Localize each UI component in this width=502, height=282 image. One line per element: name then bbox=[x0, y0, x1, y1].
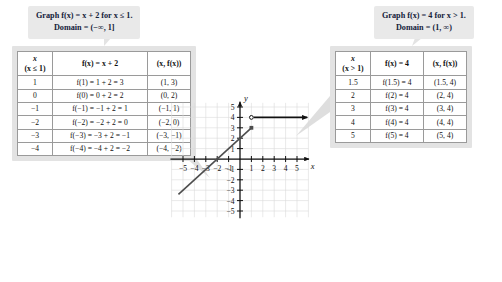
callout-left-line1: Graph f(x) = x + 2 for x ≤ 1. bbox=[36, 10, 132, 22]
table-row: 0 f(0) = 0 + 2 = 2 (0, 2) bbox=[18, 89, 191, 102]
y-tick-label: 3 bbox=[231, 124, 235, 133]
table-panel-left: x (x ≤ 1) f(x) = x + 2 (x, f(x)) 1 f(1) … bbox=[12, 46, 196, 161]
cell-fx: f(−1) = −1 + 2 = 1 bbox=[53, 103, 148, 116]
cell-fx: f(−2) = −2 + 2 = 0 bbox=[53, 116, 148, 129]
cell-fx: f(0) = 0 + 2 = 2 bbox=[53, 89, 148, 102]
table-left: x (x ≤ 1) f(x) = x + 2 (x, f(x)) 1 f(1) … bbox=[17, 51, 191, 156]
cell-pair: (5, 4) bbox=[424, 129, 467, 142]
table-row: 4 f(4) = 4 (4, 4) bbox=[336, 116, 467, 129]
callout-right-line2: Domain = (1, ∞) bbox=[382, 22, 466, 34]
table-left-body: 1 f(1) = 1 + 2 = 3 (1, 3) 0 f(0) = 0 + 2… bbox=[18, 76, 191, 156]
table-row: 1.5 f(1.5) = 4 (1.5, 4) bbox=[336, 76, 467, 89]
y-axis-label: y bbox=[243, 93, 248, 103]
cell-fx: f(4) = 4 bbox=[371, 116, 424, 129]
table-right-header-fx: f(x) = 4 bbox=[371, 52, 424, 76]
table-right-header-x-sub: (x > 1) bbox=[341, 64, 365, 74]
cell-pair: (1, 3) bbox=[148, 76, 191, 89]
y-tick-label: 5 bbox=[231, 103, 235, 112]
cell-x: 1.5 bbox=[336, 76, 371, 89]
closed-endpoint-marker bbox=[250, 126, 254, 130]
table-left-header-row: x (x ≤ 1) f(x) = x + 2 (x, f(x)) bbox=[18, 52, 191, 76]
callout-right: Graph f(x) = 4 for x > 1. Domain = (1, ∞… bbox=[374, 6, 474, 39]
callout-right-line1: Graph f(x) = 4 for x > 1. bbox=[382, 10, 466, 22]
table-row: −1 f(−1) = −1 + 2 = 1 (−1, 1) bbox=[18, 103, 191, 116]
callout-left-line2: Domain = (−∞, 1] bbox=[36, 22, 132, 34]
graph-svg: −5−4−3−2−112345−5−4−3−2−112345 x y bbox=[178, 92, 348, 232]
x-tick-label: 2 bbox=[261, 164, 265, 173]
table-right-body: 1.5 f(1.5) = 4 (1.5, 4) 2 f(2) = 4 (2, 4… bbox=[336, 76, 467, 142]
cell-x: −1 bbox=[18, 103, 53, 116]
table-left-header-x: x (x ≤ 1) bbox=[18, 52, 53, 76]
x-tick-label: 4 bbox=[284, 164, 288, 173]
y-tick-label: −5 bbox=[226, 207, 234, 216]
callout-left: Graph f(x) = x + 2 for x ≤ 1. Domain = (… bbox=[28, 6, 140, 39]
table-left-header-fx: f(x) = x + 2 bbox=[53, 52, 148, 76]
cell-fx: f(−4) = −4 + 2 = −2 bbox=[53, 142, 148, 155]
table-row: −4 f(−4) = −4 + 2 = −2 (−4, −2) bbox=[18, 142, 191, 155]
x-tick-label: 3 bbox=[272, 164, 276, 173]
table-right-header-pair: (x, f(x)) bbox=[424, 52, 467, 76]
table-right-header-x-top: x bbox=[351, 54, 355, 63]
cell-fx: f(5) = 4 bbox=[371, 129, 424, 142]
y-tick-label: −2 bbox=[226, 176, 234, 185]
x-tick-label: −2 bbox=[213, 164, 221, 173]
x-tick-label: −5 bbox=[179, 164, 187, 173]
table-row: 3 f(3) = 4 (3, 4) bbox=[336, 103, 467, 116]
cell-x: −4 bbox=[18, 142, 53, 155]
x-tick-label: 5 bbox=[295, 164, 299, 173]
cell-pair: (2, 4) bbox=[424, 89, 467, 102]
table-row: 2 f(2) = 4 (2, 4) bbox=[336, 89, 467, 102]
cell-fx: f(1.5) = 4 bbox=[371, 76, 424, 89]
open-endpoint-marker bbox=[250, 116, 254, 120]
table-row: 1 f(1) = 1 + 2 = 3 (1, 3) bbox=[18, 76, 191, 89]
cell-x: −2 bbox=[18, 116, 53, 129]
cell-pair: (1.5, 4) bbox=[424, 76, 467, 89]
table-left-header-x-top: x bbox=[33, 54, 37, 63]
table-row: −3 f(−3) = −3 + 2 = −1 (−3, −1) bbox=[18, 129, 191, 142]
table-panel-right: x (x > 1) f(x) = 4 (x, f(x)) 1.5 f(1.5) … bbox=[330, 46, 472, 148]
y-tick-label: 2 bbox=[231, 134, 235, 143]
cell-x: 0 bbox=[18, 89, 53, 102]
table-right: x (x > 1) f(x) = 4 (x, f(x)) 1.5 f(1.5) … bbox=[335, 51, 467, 143]
cell-fx: f(2) = 4 bbox=[371, 89, 424, 102]
x-tick-label: 1 bbox=[250, 164, 254, 173]
table-row: 5 f(5) = 4 (5, 4) bbox=[336, 129, 467, 142]
x-tick-label: −4 bbox=[190, 164, 198, 173]
y-tick-label: −1 bbox=[226, 165, 234, 174]
table-left-header-pair: (x, f(x)) bbox=[148, 52, 191, 76]
cell-fx: f(−3) = −3 + 2 = −1 bbox=[53, 129, 148, 142]
y-tick-label: −4 bbox=[226, 197, 234, 206]
table-right-header-row: x (x > 1) f(x) = 4 (x, f(x)) bbox=[336, 52, 467, 76]
coordinate-graph: −5−4−3−2−112345−5−4−3−2−112345 x y bbox=[178, 92, 348, 232]
x-axis-label: x bbox=[310, 161, 315, 171]
cell-x: 1 bbox=[18, 76, 53, 89]
cell-fx: f(1) = 1 + 2 = 3 bbox=[53, 76, 148, 89]
table-row: −2 f(−2) = −2 + 2 = 0 (−2, 0) bbox=[18, 116, 191, 129]
cell-pair: (4, 4) bbox=[424, 116, 467, 129]
table-left-header-x-sub: (x ≤ 1) bbox=[23, 64, 47, 74]
y-tick-label: −3 bbox=[226, 186, 234, 195]
y-tick-label: 4 bbox=[231, 113, 235, 122]
cell-pair: (3, 4) bbox=[424, 103, 467, 116]
cell-x: −3 bbox=[18, 129, 53, 142]
diagram-stage: Graph f(x) = x + 2 for x ≤ 1. Domain = (… bbox=[0, 0, 502, 282]
table-right-header-x: x (x > 1) bbox=[336, 52, 371, 76]
cell-fx: f(3) = 4 bbox=[371, 103, 424, 116]
